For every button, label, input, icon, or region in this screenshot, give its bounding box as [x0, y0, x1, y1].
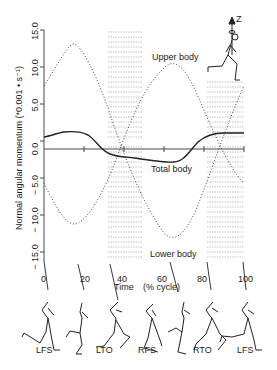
shaded-region-1 [108, 32, 143, 257]
x-axis-label-time: Time [114, 282, 134, 292]
event-rto: RTO [193, 345, 212, 355]
x-tick-0: 0 [41, 274, 46, 284]
total-body-label: Total body [151, 164, 193, 174]
upper-body-label: Upper body [152, 52, 199, 62]
zero-line [44, 146, 244, 152]
x-tick-20: 20 [80, 274, 90, 284]
y-tick-neg15: − 15.0 [30, 244, 40, 269]
event-lfs-2: LFS [237, 345, 254, 355]
y-tick-neg10: − 10.0 [30, 207, 40, 232]
y-tick-neg5: − 5.0 [30, 175, 40, 195]
x-axis-label-unit: (% cycle) [143, 282, 180, 292]
inset-runner-figure [208, 17, 240, 80]
y-tick-labels: 15.0 10.0 5.0 0.0 − 5.0 − 10.0 − 15.0 [30, 22, 40, 269]
x-tick-80: 80 [197, 274, 207, 284]
y-axis-label: Normal angular momentum (*0.001 • s⁻¹) [14, 66, 24, 230]
y-tick-5: 5.0 [30, 99, 40, 112]
z-axis-label: Z [236, 14, 242, 24]
event-rfs: RFS [138, 345, 156, 355]
y-tick-0: 0.0 [30, 143, 40, 156]
x-tick-leaders [44, 261, 246, 300]
y-tick-15: 15.0 [30, 22, 40, 40]
y-tick-10: 10.0 [30, 59, 40, 77]
lower-body-curve-B [44, 64, 244, 224]
x-tick-100: 100 [238, 274, 253, 284]
angular-momentum-chart: 15.0 10.0 5.0 0.0 − 5.0 − 10.0 − 15.0 No… [0, 0, 277, 370]
total-body-curve [44, 132, 244, 163]
y-axis [40, 30, 44, 261]
lower-body-label: Lower body [150, 249, 197, 259]
event-lfs-1: LFS [36, 345, 53, 355]
event-lto: LTO [96, 345, 113, 355]
shaded-region-2 [207, 82, 244, 257]
upper-body-curve-A [44, 44, 244, 238]
